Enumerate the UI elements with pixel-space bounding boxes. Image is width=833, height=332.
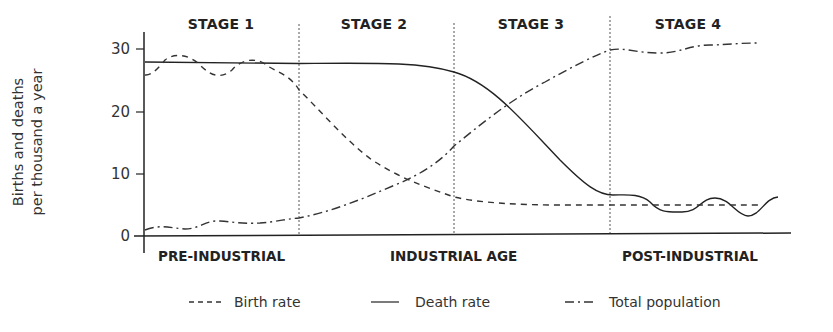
chart-plot-area (0, 0, 833, 290)
legend-total-population-label: Total population (609, 294, 721, 310)
dash-dot-line-icon (563, 297, 599, 307)
chart-legend: Birth rate Death rate Total population (0, 294, 833, 318)
legend-death-rate-label: Death rate (415, 294, 490, 310)
dashed-line-icon (188, 297, 224, 307)
era-industrial-age-label: INDUSTRIAL AGE (390, 248, 517, 264)
legend-item-total-population: Total population (563, 294, 721, 310)
era-post-industrial-label: POST-INDUSTRIAL (622, 248, 758, 264)
solid-line-icon (369, 297, 405, 307)
death-rate-line (145, 62, 778, 216)
legend-item-birth-rate: Birth rate (188, 294, 301, 310)
birth-rate-line (145, 55, 760, 205)
legend-birth-rate-label: Birth rate (234, 294, 301, 310)
x-axis-line (134, 233, 791, 236)
legend-item-death-rate: Death rate (369, 294, 490, 310)
era-pre-industrial-label: PRE-INDUSTRIAL (158, 248, 285, 264)
